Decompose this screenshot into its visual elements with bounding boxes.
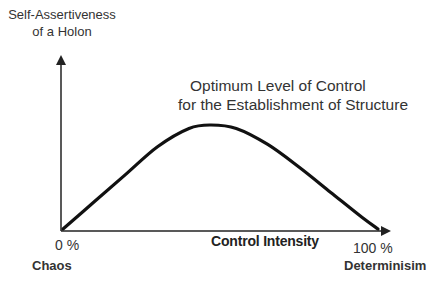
x-tick-100: 100 %: [353, 240, 393, 256]
x-tick-100-label: Determinisim: [344, 258, 426, 273]
x-tick-0: 0 %: [55, 237, 79, 253]
x-tick-0-label: Chaos: [32, 258, 72, 273]
data-curve: [63, 125, 378, 229]
